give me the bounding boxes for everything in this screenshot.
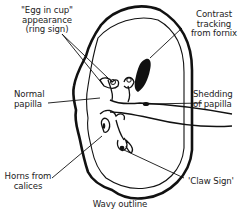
label-wavy-outline: Wavy outline: [88, 200, 152, 210]
label-shedding-papilla: Shedding of papilla: [193, 90, 241, 109]
leader-horns: [52, 136, 102, 178]
label-line: (ring sign): [4, 25, 90, 35]
label-line: Wavy outline: [88, 200, 152, 210]
label-egg-in-cup: "Egg in cup" appearance (ring sign): [4, 6, 90, 35]
leader-egg-2: [62, 34, 104, 86]
egg-ring: [127, 78, 131, 82]
label-line: 'Claw Sign': [182, 177, 240, 187]
label-line: papilla: [14, 100, 50, 110]
egg-ring: [111, 80, 116, 85]
label-horns-from-calices: Horns from calices: [2, 172, 54, 191]
label-claw-sign: 'Claw Sign': [182, 177, 240, 187]
calyx-dot: [103, 123, 106, 129]
upper-calices: [100, 78, 134, 103]
leader-contrast: [150, 28, 182, 58]
leader-egg-1: [62, 34, 108, 78]
label-contrast-tracking: Contrast tracking from fornix: [188, 10, 240, 39]
leader-claw: [124, 150, 184, 178]
label-line: from fornix: [188, 29, 240, 39]
label-line: of papilla: [193, 100, 241, 110]
label-line: calices: [2, 182, 54, 192]
contrast-tracking-blob: [135, 59, 151, 92]
claw-dot: [120, 146, 125, 150]
label-normal-papilla: Normal papilla: [14, 90, 50, 109]
